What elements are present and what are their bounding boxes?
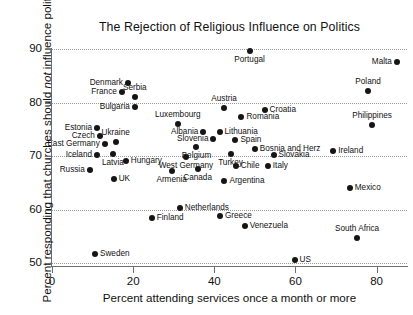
x-axis-tick [133,266,134,273]
x-axis-line [51,266,408,267]
plot-area: PortugalMaltaDenmarkPolandSerbiaFranceAu… [52,49,407,263]
data-point[interactable] [113,139,119,145]
y-axis-tick [45,49,52,50]
data-point-label: Armenia [156,176,187,184]
x-axis-tick [377,266,378,273]
x-axis-tick [214,266,215,273]
data-point-label: UK [119,175,130,183]
data-point-label: East Germany [47,140,99,148]
gridline-y [52,263,407,264]
data-point-label: Serbia [123,83,147,91]
data-point[interactable] [149,215,155,221]
y-axis-tick-label: 50 [0,256,42,268]
data-point[interactable] [354,235,360,241]
data-point[interactable] [210,136,216,142]
data-point[interactable] [347,185,353,191]
data-point[interactable] [119,89,125,95]
data-point-label: Russia [60,166,85,174]
data-point[interactable] [110,151,116,157]
chart-title: The Rejection of Religious Influence on … [52,20,407,34]
data-point[interactable] [292,257,298,263]
y-axis-tick [45,156,52,157]
data-point-label: Greece [225,212,252,220]
data-point-label: Bulgaria [100,103,130,111]
y-axis-tick-label: 60 [0,203,42,215]
data-point-label: US [300,256,311,264]
data-point[interactable] [132,94,138,100]
data-point-label: Denmark [90,79,123,87]
data-point[interactable] [132,104,138,110]
data-point[interactable] [94,125,100,131]
data-point[interactable] [92,251,98,257]
data-point[interactable] [102,141,108,147]
x-axis-tick-label: 60 [275,275,315,287]
data-point[interactable] [265,163,271,169]
data-point-label: Latvia [102,159,124,167]
data-point[interactable] [232,137,238,143]
y-axis-tick-label: 80 [0,96,42,108]
data-point[interactable] [111,176,117,182]
x-axis-tick-label: 80 [357,275,397,287]
data-point[interactable] [221,178,227,184]
data-point-label: Poland [355,78,381,86]
x-axis-title: Percent attending services once a month … [52,291,407,304]
data-point[interactable] [193,144,199,150]
x-axis-tick [52,266,53,273]
data-point[interactable] [217,129,223,135]
data-point-label: Austria [211,95,236,103]
data-point[interactable] [330,148,336,154]
data-point[interactable] [233,163,239,169]
data-point-label: Spain [240,136,261,144]
data-point-label: France [91,88,116,96]
y-axis-tick [45,263,52,264]
data-point-label: Argentina [229,177,264,185]
data-point[interactable] [195,166,201,172]
data-point-label: Philippines [352,112,392,120]
data-point[interactable] [169,168,175,174]
data-point-label: Ukraine [102,129,130,137]
y-axis-tick [45,210,52,211]
data-point-label: West Germany [159,162,213,170]
scatter-chart-figure: The Rejection of Religious Influence on … [0,0,413,315]
data-point[interactable] [271,152,277,158]
data-point-label: Turkey [218,159,243,167]
data-point-label: South Africa [335,225,379,233]
x-axis-tick-label: 20 [113,275,153,287]
data-point-label: Sweden [100,250,130,258]
data-point[interactable] [369,122,375,128]
data-point[interactable] [94,152,100,158]
gridline-y [52,49,407,50]
x-axis-tick [295,266,296,273]
y-axis-title-suffix: influence politics [40,0,53,72]
y-axis-title-emphasis: not [40,72,53,88]
data-point-label: Romania [246,113,279,121]
data-point[interactable] [183,154,189,160]
data-point[interactable] [238,114,244,120]
x-axis-tick-label: 40 [194,275,234,287]
data-point-label: Mexico [355,184,381,192]
data-point-label: Malta [372,58,392,66]
data-point[interactable] [247,48,253,54]
data-point-label: Venezuela [250,222,288,230]
data-point-label: Slovenia [177,135,208,143]
data-point[interactable] [87,167,93,173]
y-axis-title-prefix: Percent responding that churches should [40,89,53,303]
data-point-label: Portugal [234,56,265,64]
data-point[interactable] [394,59,400,65]
data-point-label: Iceland [66,151,92,159]
y-axis-tick [45,103,52,104]
data-point[interactable] [221,105,227,111]
data-point[interactable] [217,213,223,219]
data-point[interactable] [252,146,258,152]
data-point-label: Luxembourg [155,111,201,119]
data-point-label: Netherlands [185,204,229,212]
data-point[interactable] [123,158,129,164]
data-point-label: Slovakia [279,151,310,159]
y-axis-tick-label: 70 [0,149,42,161]
data-point[interactable] [177,205,183,211]
y-axis-tick-label: 90 [0,42,42,54]
data-point[interactable] [242,223,248,229]
data-point[interactable] [365,88,371,94]
x-axis-tick-label: 0 [32,275,72,287]
data-point[interactable] [228,151,234,157]
